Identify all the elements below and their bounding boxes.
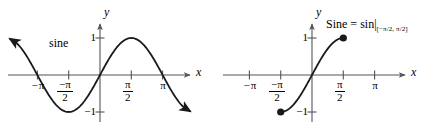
formula-base: sin — [360, 17, 374, 31]
minus-sign: − — [32, 79, 38, 91]
fraction-denominator: 2 — [123, 92, 133, 104]
x-tick-label-neg-pi: −π — [238, 80, 262, 91]
formula-name: Sine — [326, 17, 347, 31]
fraction-numerator: −π — [269, 79, 285, 92]
x-tick-label-pi-over-2: π 2 — [335, 79, 353, 103]
y-tick-label-neg-1: −1 — [76, 106, 96, 117]
fraction-denominator: 2 — [269, 92, 285, 104]
panel-sine-restricted: x y Sine=sin|[−π/2, π/2] −π −π 2 π 2 π 1… — [215, 0, 429, 134]
y-axis-label: y — [104, 6, 109, 18]
sine-function-figure: x y sine −π −π 2 π 2 π 1 −1 — [0, 0, 429, 134]
x-tick-label-pi: π — [155, 80, 171, 91]
panel-sine-unrestricted: x y sine −π −π 2 π 2 π 1 −1 — [0, 0, 214, 134]
sine-curve-arrow-start — [9, 39, 16, 43]
fraction-denominator: 2 — [57, 92, 73, 104]
y-axis-label: y — [316, 6, 321, 18]
y-tick-label-pos-1: 1 — [298, 32, 308, 43]
formula-restriction-domain: [−π/2, π/2] — [377, 25, 408, 33]
x-tick-label-neg-pi-over-2: −π 2 — [269, 79, 293, 103]
fraction-neg-pi-over-2: −π 2 — [57, 79, 73, 103]
x-tick-label-pi-over-2: π 2 — [123, 79, 141, 103]
x-tick-label-neg-pi: −π — [26, 80, 50, 91]
fraction-numerator: π — [123, 79, 133, 92]
fraction-pi-over-2: π 2 — [335, 79, 345, 103]
x-tick-label-pi: π — [367, 80, 383, 91]
x-axis-label: x — [411, 66, 416, 78]
fraction-pi-over-2: π 2 — [123, 79, 133, 103]
left-plot-svg — [0, 0, 214, 134]
pi-glyph: π — [39, 79, 45, 91]
y-tick-label-pos-1: 1 — [86, 32, 96, 43]
fraction-numerator: −π — [57, 79, 73, 92]
fraction-neg-pi-over-2: −π 2 — [269, 79, 285, 103]
formula-sine-restriction: Sine=sin|[−π/2, π/2] — [326, 18, 408, 33]
x-axis-label: x — [196, 66, 201, 78]
x-tick-label-neg-pi-over-2: −π 2 — [57, 79, 81, 103]
endpoint-dot-upper — [340, 34, 347, 41]
pi-glyph: π — [251, 79, 257, 91]
endpoint-dot-lower — [277, 108, 284, 115]
curve-label-sine: sine — [49, 37, 68, 49]
y-tick-label-neg-1: −1 — [288, 106, 308, 117]
fraction-numerator: π — [335, 79, 345, 92]
fraction-denominator: 2 — [335, 92, 345, 104]
formula-equals: = — [350, 17, 357, 31]
sine-curve-arrow-end — [184, 107, 191, 111]
minus-sign: − — [244, 79, 250, 91]
